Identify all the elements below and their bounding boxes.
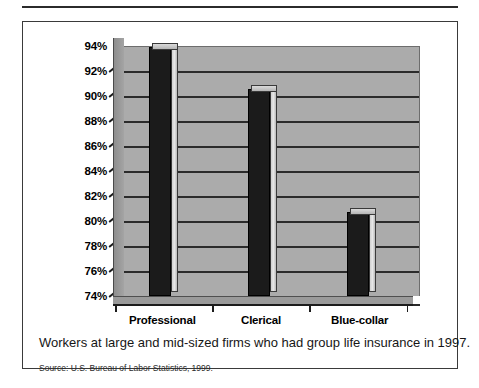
y-axis-tick-label: 74% [85,290,107,302]
x-axis-labels: ProfessionalClericalBlue-collar [113,314,420,332]
plot-area [113,38,420,312]
y-axis-tick-label: 88% [85,115,107,127]
y-axis-tick-label: 84% [85,165,107,177]
x-axis-category-label: Professional [129,314,196,326]
bar-front-face [149,47,171,296]
bar-chart: 94%92%90%88%86%84%82%80%78%76%74% Profes… [23,22,459,310]
y-axis-tick-label: 82% [85,190,107,202]
bar-top-cap [350,208,376,215]
figure-caption: Workers at large and mid-sized firms who… [39,335,443,351]
bar-top-cap [152,43,178,50]
y-axis-tick-label: 78% [85,240,107,252]
y-axis-tick-label: 94% [85,40,107,52]
y-axis-tick-label: 76% [85,265,107,277]
plot-left-wall [113,38,124,296]
y-axis-tick-label: 90% [85,90,107,102]
x-axis-line [113,304,413,306]
y-axis-tick-label: 80% [85,215,107,227]
top-divider-rule [22,6,458,8]
x-axis [113,304,420,305]
bar-front-face [347,212,369,296]
bar-front-face [248,89,270,297]
y-axis-tick-label: 86% [85,140,107,152]
x-axis-tick-mark [115,306,117,312]
x-axis-tick-mark [212,306,214,312]
x-axis-category-label: Clerical [241,314,281,326]
x-axis-category-label: Blue-collar [331,314,388,326]
figure-source: Source: U.S. Bureau of Labor Statistics,… [39,362,443,374]
x-axis-tick-mark [407,306,409,312]
bar-top-cap [251,85,277,92]
figure-box: 94%92%90%88%86%84%82%80%78%76%74% Profes… [22,21,458,369]
bar-side-face [369,211,376,292]
bar-series [124,46,420,296]
bar-side-face [171,46,178,292]
x-axis-tick-mark [309,306,311,312]
figure-root: 94%92%90%88%86%84%82%80%78%76%74% Profes… [0,0,479,388]
bar-side-face [270,88,277,293]
y-axis-tick-label: 92% [85,65,107,77]
